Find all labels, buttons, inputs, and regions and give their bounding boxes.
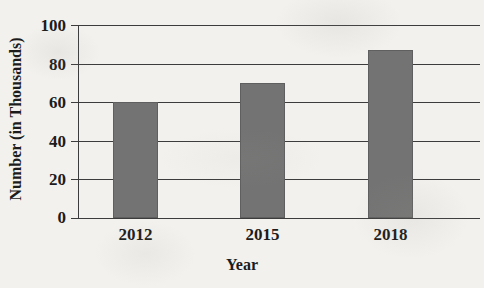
y-tick-mark-0	[71, 218, 79, 219]
y-axis-spine	[78, 25, 79, 218]
y-tick-mark-80	[71, 64, 79, 65]
y-axis-title: Number (in Thousands)	[7, 19, 25, 219]
gridline-80	[78, 64, 480, 65]
y-tick-mark-100	[71, 25, 79, 26]
bar-chart: 100 80 60 40 20 0 2012 2015 2018 Year Nu…	[0, 0, 484, 288]
x-tick-label-2015: 2015	[225, 226, 300, 243]
gridline-100	[78, 25, 480, 26]
bar-2012[interactable]	[113, 102, 158, 218]
y-tick-mark-20	[71, 179, 79, 180]
x-axis-title: Year	[0, 256, 484, 274]
x-tick-label-2012: 2012	[98, 226, 173, 243]
y-tick-mark-60	[71, 102, 79, 103]
bar-2018[interactable]	[368, 50, 413, 218]
x-tick-label-2018: 2018	[353, 226, 428, 243]
y-tick-mark-40	[71, 141, 79, 142]
bar-2015[interactable]	[240, 83, 285, 218]
gridline-0	[78, 218, 480, 219]
